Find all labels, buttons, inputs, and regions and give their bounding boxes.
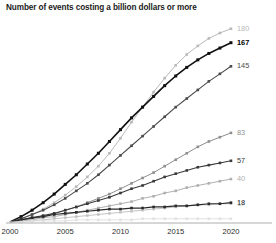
- data-point-marker: [64, 220, 67, 223]
- end-labels-layer: 1801671458357401718: [237, 24, 249, 208]
- x-axis: 20002005201020152020: [2, 223, 272, 236]
- data-point-marker: [174, 74, 177, 77]
- data-point-marker: [130, 144, 133, 147]
- data-point-marker: [208, 202, 211, 205]
- data-point-marker: [152, 95, 155, 98]
- data-point-marker: [64, 216, 67, 219]
- data-point-marker: [219, 180, 222, 183]
- data-point-marker: [197, 184, 200, 187]
- data-point-marker: [230, 27, 233, 30]
- data-point-marker: [163, 176, 166, 179]
- data-point-marker: [130, 116, 133, 119]
- data-point-marker: [108, 152, 111, 155]
- data-point-marker: [219, 162, 222, 165]
- data-point-marker: [53, 220, 56, 223]
- series-167: [10, 41, 232, 222]
- data-point-marker: [185, 66, 188, 69]
- series-end-label-40: 40: [237, 174, 245, 183]
- data-point-marker: [174, 158, 177, 161]
- data-point-marker: [75, 211, 78, 214]
- data-point-marker: [119, 128, 122, 131]
- data-point-marker: [197, 166, 200, 169]
- data-point-marker: [197, 217, 200, 220]
- data-point-marker: [230, 201, 233, 204]
- data-point-marker: [208, 80, 211, 83]
- data-point-marker: [152, 217, 155, 220]
- data-point-marker: [174, 172, 177, 175]
- data-point-marker: [75, 219, 78, 222]
- data-point-marker: [185, 152, 188, 155]
- data-point-marker: [86, 163, 89, 166]
- data-point-marker: [75, 173, 78, 176]
- data-point-marker: [219, 73, 222, 76]
- data-point-marker: [174, 205, 177, 208]
- data-point-marker: [163, 217, 166, 220]
- x-tick-label-2015: 2015: [167, 227, 184, 236]
- data-point-marker: [152, 171, 155, 174]
- data-point-marker: [75, 190, 78, 193]
- x-tick-label-2000: 2000: [2, 227, 19, 236]
- data-point-marker: [163, 165, 166, 168]
- data-point-marker: [97, 213, 100, 216]
- data-point-marker: [219, 32, 222, 35]
- data-point-marker: [208, 182, 211, 185]
- data-point-marker: [86, 176, 89, 179]
- data-point-marker: [218, 47, 221, 50]
- data-point-marker: [141, 184, 144, 187]
- data-point-marker: [130, 207, 133, 210]
- data-point-marker: [64, 209, 67, 212]
- data-point-marker: [174, 217, 177, 220]
- data-point-marker: [163, 77, 166, 80]
- series-line: [10, 43, 231, 222]
- chart-container: Number of events costing a billion dolla…: [0, 0, 276, 243]
- data-point-marker: [185, 53, 188, 56]
- data-point-marker: [163, 206, 166, 209]
- data-point-marker: [197, 89, 200, 92]
- x-tick-label-2010: 2010: [112, 227, 129, 236]
- data-point-marker: [152, 195, 155, 198]
- series-145: [10, 65, 232, 222]
- data-point-marker: [119, 187, 122, 190]
- data-point-marker: [141, 217, 144, 220]
- series-end-label-167: 167: [237, 38, 249, 47]
- data-point-marker: [53, 213, 56, 216]
- data-point-marker: [108, 164, 111, 167]
- data-point-marker: [152, 180, 155, 183]
- data-point-marker: [130, 219, 133, 222]
- data-point-marker: [141, 106, 144, 109]
- data-point-marker: [219, 217, 222, 220]
- data-point-marker: [42, 220, 45, 223]
- data-point-marker: [31, 220, 34, 223]
- data-point-marker: [97, 209, 100, 212]
- data-point-marker: [208, 164, 211, 167]
- data-point-marker: [141, 207, 144, 210]
- data-point-marker: [108, 219, 111, 222]
- data-point-marker: [152, 206, 155, 209]
- data-point-marker: [119, 137, 122, 140]
- data-point-marker: [64, 197, 67, 200]
- data-point-marker: [119, 219, 122, 222]
- data-point-marker: [130, 182, 133, 185]
- data-point-marker: [174, 190, 177, 193]
- data-point-marker: [97, 152, 100, 155]
- data-point-marker: [119, 202, 122, 205]
- data-point-marker: [31, 216, 34, 219]
- series-end-label-18: 18: [237, 198, 245, 207]
- data-point-marker: [130, 200, 133, 203]
- data-point-marker: [31, 213, 34, 216]
- data-point-marker: [208, 217, 211, 220]
- data-point-marker: [208, 140, 211, 143]
- data-point-marker: [86, 219, 89, 222]
- data-point-marker: [86, 182, 89, 185]
- line-chart-svg: 20002005201020152020 1801671458357401718: [0, 0, 276, 243]
- series-end-label-145: 145: [237, 61, 249, 70]
- data-point-marker: [185, 97, 188, 100]
- data-point-marker: [86, 214, 89, 217]
- data-point-marker: [108, 193, 111, 196]
- data-point-marker: [197, 204, 200, 207]
- data-point-marker: [163, 192, 166, 195]
- data-point-marker: [75, 206, 78, 209]
- data-point-marker: [229, 41, 232, 44]
- data-point-marker: [174, 106, 177, 109]
- data-point-marker: [230, 178, 233, 181]
